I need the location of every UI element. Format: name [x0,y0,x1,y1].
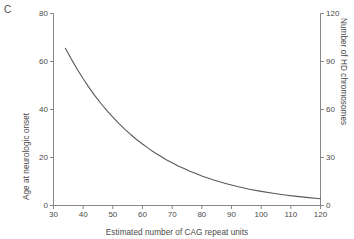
x-axis-tick-label: 120 [309,210,333,219]
x-axis-title: Estimated number of CAG repeat units [0,228,354,237]
data-curve-age-at-onset [65,48,320,198]
x-axis-tick-label: 60 [131,210,155,219]
x-axis-tick-label: 50 [101,210,125,219]
x-axis-tick-label: 90 [220,210,244,219]
x-axis-tick-label: 40 [71,210,95,219]
y-axis-right-tick-label: 120 [326,9,352,18]
y-axis-left-title: Age at neurologic onset [22,113,31,200]
x-axis-tick-label: 80 [190,210,214,219]
chart-plot-area [0,0,354,239]
x-axis-tick-label: 100 [249,210,273,219]
y-axis-left-tick-label: 80 [22,9,48,18]
figure-panel-c: C 02040608003060901203040506070809010011… [0,0,354,239]
axes-group [50,14,324,210]
x-axis-tick-label: 30 [42,210,66,219]
y-axis-left-tick-label: 60 [22,57,48,66]
y-axis-left-tick-label: 0 [22,201,48,210]
y-axis-right-tick-label: 30 [326,153,352,162]
y-axis-right-tick-label: 0 [326,201,352,210]
x-axis-tick-label: 110 [279,210,303,219]
panel-letter: C [4,4,11,15]
x-axis-tick-label: 70 [160,210,184,219]
y-axis-right-title: Number of HD chromosomes [339,18,348,125]
